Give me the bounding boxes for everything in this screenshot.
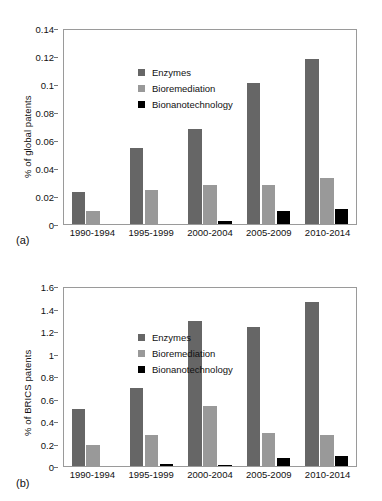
bar-enzymes-2010-2014 [305, 59, 318, 224]
legend-swatch-enzymes-icon [138, 69, 145, 76]
x-tick-label: 1990-1994 [63, 469, 122, 485]
y-tick-mark [54, 310, 58, 311]
x-tick-label: 2005-2009 [239, 227, 298, 243]
bar-bioremediation-1995-1999 [145, 190, 158, 224]
x-tick-label: 1990-1994 [63, 227, 122, 243]
bar-enzymes-2005-2009 [247, 83, 260, 224]
y-tick-mark [54, 197, 58, 198]
bar-bioremediation-2005-2009 [262, 433, 275, 466]
x-tick-label: 2005-2009 [239, 469, 298, 485]
bar-enzymes-1995-1999 [130, 388, 143, 466]
bar-enzymes-2005-2009 [247, 327, 260, 467]
legend-swatch-bionanotechnology-icon [138, 101, 145, 108]
y-tick-mark [54, 377, 58, 378]
legend-b: Enzymes Bioremediation Bionanotechnology [138, 331, 233, 376]
x-tick-label: 2010-2014 [298, 469, 357, 485]
bar-bioremediation-2010-2014 [320, 435, 333, 466]
y-axis-tick-labels-a: 00.020.040.060.080.10.120.14 [0, 29, 58, 225]
bar-enzymes-2000-2004 [188, 129, 201, 224]
legend-swatch-bioremediation-icon [138, 350, 145, 357]
legend-item-bionanotechnology: Bionanotechnology [138, 98, 233, 111]
y-tick-mark [54, 113, 58, 114]
bar-enzymes-1990-1994 [72, 192, 85, 224]
bar-bionanotechnology-2010-2014 [335, 456, 348, 466]
bar-bioremediation-2010-2014 [320, 178, 333, 224]
y-tick-mark [54, 445, 58, 446]
x-tick-label: 1995-1999 [122, 469, 181, 485]
y-tick-mark [54, 355, 58, 356]
legend-a: Enzymes Bioremediation Bionanotechnology [138, 66, 233, 111]
chart-panel-a: % of global patents 00.020.040.060.080.1… [0, 0, 382, 250]
bar-enzymes-1990-1994 [72, 409, 85, 466]
bar-bionanotechnology-2005-2009 [277, 211, 290, 224]
legend-item-enzymes: Enzymes [138, 66, 233, 79]
y-tick-mark [54, 57, 58, 58]
x-tick-label: 1995-1999 [122, 227, 181, 243]
x-axis-tick-labels-a: 1990-19941995-19992000-20042005-20092010… [63, 227, 357, 243]
y-tick-mark [54, 85, 58, 86]
y-tick-mark [54, 225, 58, 226]
y-tick-mark [54, 141, 58, 142]
bar-bioremediation-2000-2004 [203, 185, 216, 224]
plot-area-b: Enzymes Bioremediation Bionanotechnology [63, 287, 357, 467]
legend-item-bioremediation: Bioremediation [138, 82, 233, 95]
x-tick-label: 2010-2014 [298, 227, 357, 243]
legend-swatch-enzymes-icon [138, 334, 145, 341]
bar-bionanotechnology-1995-1999 [160, 464, 173, 466]
bar-bioremediation-1990-1994 [86, 211, 99, 224]
y-tick-mark [54, 287, 58, 288]
y-tick-mark [54, 29, 58, 30]
legend-swatch-bionanotechnology-icon [138, 366, 145, 373]
bar-enzymes-2010-2014 [305, 302, 318, 466]
y-tick-mark [54, 332, 58, 333]
legend-label-enzymes: Enzymes [152, 332, 191, 343]
y-tick-mark [54, 169, 58, 170]
x-tick-label: 2000-2004 [181, 227, 240, 243]
legend-label-bioremediation: Bioremediation [152, 348, 215, 359]
y-axis-tick-labels-b: 00.20.40.60.811.21.41.6 [0, 287, 58, 467]
legend-label-enzymes: Enzymes [152, 67, 191, 78]
panel-tag-a: (a) [16, 234, 29, 246]
panel-tag-b: (b) [16, 477, 29, 489]
bar-bionanotechnology-2000-2004 [218, 221, 231, 224]
y-tick-mark [54, 467, 58, 468]
bar-bioremediation-2005-2009 [262, 185, 275, 224]
bar-bioremediation-1990-1994 [86, 445, 99, 466]
bar-bioremediation-2000-2004 [203, 406, 216, 466]
legend-label-bionanotechnology: Bionanotechnology [152, 99, 233, 110]
plot-area-a: Enzymes Bioremediation Bionanotechnology [63, 29, 357, 225]
legend-item-bioremediation: Bioremediation [138, 347, 233, 360]
x-axis-tick-labels-b: 1990-19941995-19992000-20042005-20092010… [63, 469, 357, 485]
bar-bionanotechnology-2000-2004 [218, 465, 231, 467]
bar-bionanotechnology-2005-2009 [277, 458, 290, 466]
patent-share-figure: % of global patents 00.020.040.060.080.1… [0, 0, 382, 501]
legend-item-bionanotechnology: Bionanotechnology [138, 363, 233, 376]
bar-bionanotechnology-2010-2014 [335, 209, 348, 224]
chart-panel-b: % of BRICS patents 00.20.40.60.811.21.41… [0, 251, 382, 501]
x-tick-label: 2000-2004 [181, 469, 240, 485]
bar-enzymes-1995-1999 [130, 148, 143, 224]
y-tick-mark [54, 400, 58, 401]
y-tick-mark [54, 422, 58, 423]
legend-label-bioremediation: Bioremediation [152, 83, 215, 94]
bar-bioremediation-1995-1999 [145, 435, 158, 466]
legend-label-bionanotechnology: Bionanotechnology [152, 364, 233, 375]
legend-swatch-bioremediation-icon [138, 85, 145, 92]
legend-item-enzymes: Enzymes [138, 331, 233, 344]
